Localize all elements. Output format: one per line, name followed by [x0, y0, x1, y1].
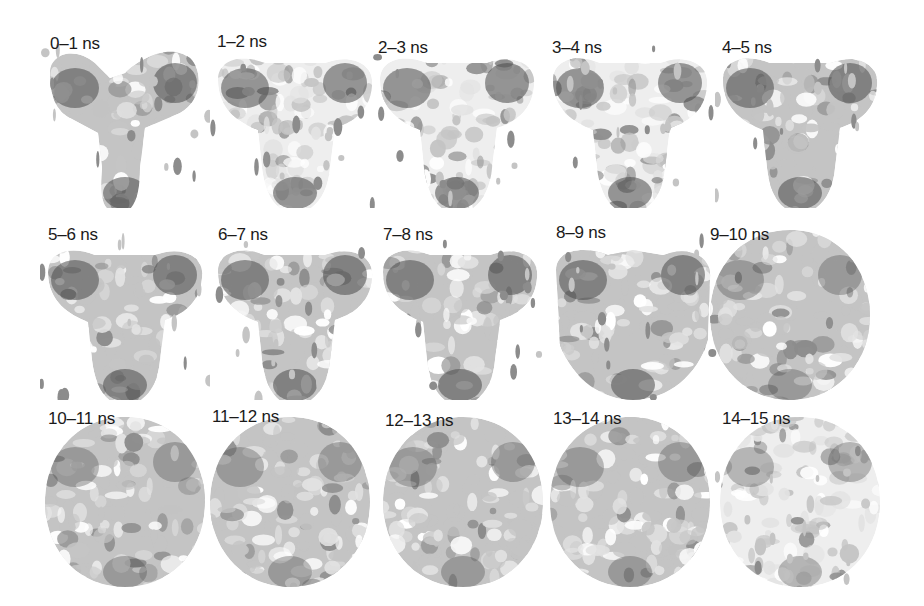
time-window-label: 1–2 ns	[217, 32, 267, 52]
snapshot-panel-10: 10–11 ns	[40, 397, 210, 587]
time-window-label: 13–14 ns	[553, 409, 621, 429]
snapshot-panel-5: 5–6 ns	[40, 210, 210, 400]
time-window-label: 4–5 ns	[722, 38, 772, 58]
snapshot-panel-13: 13–14 ns	[545, 397, 715, 587]
time-window-label: 9–10 ns	[710, 225, 769, 245]
time-window-label: 8–9 ns	[556, 223, 606, 243]
snapshot-panel-3: 3–4 ns	[545, 18, 715, 208]
time-window-label: 6–7 ns	[218, 225, 268, 245]
snapshot-panel-8: 8–9 ns	[548, 210, 718, 400]
time-window-label: 5–6 ns	[48, 225, 98, 245]
time-window-label: 10–11 ns	[48, 409, 115, 429]
snapshot-panel-7: 7–8 ns	[375, 210, 545, 400]
snapshot-panel-12: 12–13 ns	[378, 397, 548, 587]
time-window-label: 0–1 ns	[50, 34, 100, 54]
snapshot-panel-6: 6–7 ns	[210, 210, 380, 400]
snapshot-panel-2: 2–3 ns	[372, 18, 542, 208]
time-window-label: 2–3 ns	[378, 38, 428, 58]
time-window-label: 7–8 ns	[383, 225, 433, 245]
snapshot-panel-11: 11–12 ns	[205, 397, 375, 587]
time-window-label: 11–12 ns	[212, 407, 279, 427]
snapshot-panel-14: 14–15 ns	[715, 397, 885, 587]
time-window-label: 12–13 ns	[385, 411, 453, 431]
time-window-label: 3–4 ns	[552, 38, 602, 58]
snapshot-panel-1: 1–2 ns	[210, 18, 380, 208]
time-window-label: 14–15 ns	[722, 409, 790, 429]
snapshot-panel-4: 4–5 ns	[715, 18, 885, 208]
snapshot-panel-0: 0–1 ns	[40, 18, 210, 208]
snapshot-panel-9: 9–10 ns	[705, 210, 875, 400]
